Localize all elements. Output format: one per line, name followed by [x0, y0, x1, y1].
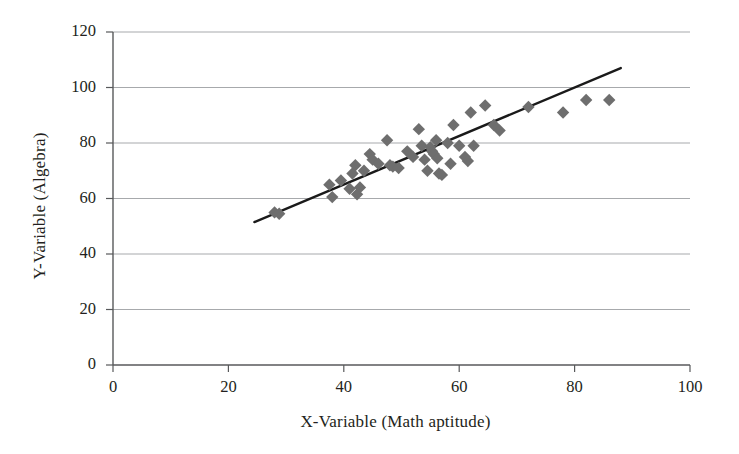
data-point-marker	[557, 106, 569, 118]
data-point-marker	[453, 140, 465, 152]
data-point-marker	[467, 140, 479, 152]
data-point-marker	[447, 119, 459, 131]
x-tick-label: 20	[204, 377, 252, 397]
scatter-plot-figure: 020406080100120020406080100 X-Variable (…	[0, 0, 739, 454]
x-tick-label: 100	[666, 377, 714, 397]
y-tick-label: 20	[48, 299, 96, 319]
data-point-marker	[522, 101, 534, 113]
x-tick-label: 40	[320, 377, 368, 397]
y-tick-label: 60	[48, 188, 96, 208]
x-axis-title: X-Variable (Math aptitude)	[0, 412, 739, 432]
y-tick-marks-group	[106, 32, 113, 365]
data-points-group	[268, 94, 615, 220]
data-point-marker	[421, 165, 433, 177]
data-point-marker	[465, 106, 477, 118]
y-tick-label: 100	[48, 77, 96, 97]
y-tick-label: 120	[48, 21, 96, 41]
x-tick-marks-group	[113, 365, 690, 372]
data-point-marker	[479, 99, 491, 111]
data-point-marker	[444, 158, 456, 170]
data-point-marker	[326, 191, 338, 203]
x-tick-label: 0	[89, 377, 137, 397]
data-point-marker	[580, 94, 592, 106]
data-point-marker	[381, 134, 393, 146]
data-point-marker	[603, 94, 615, 106]
y-tick-label: 0	[48, 354, 96, 374]
y-tick-label: 80	[48, 132, 96, 152]
data-point-marker	[413, 123, 425, 135]
y-tick-label: 40	[48, 243, 96, 263]
y-axis-title: Y-Variable (Algebra)	[30, 56, 50, 356]
x-tick-label: 60	[435, 377, 483, 397]
x-tick-label: 80	[551, 377, 599, 397]
